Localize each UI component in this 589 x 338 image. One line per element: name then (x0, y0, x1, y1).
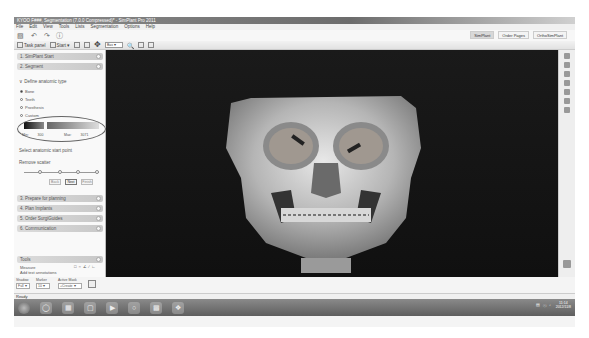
finish-button[interactable]: Finish (81, 179, 93, 185)
section-plan-implants[interactable]: 4. Plan Implants (17, 205, 103, 212)
button-label: Back (51, 180, 59, 184)
anatomic-type-heading: ∨ Define anatomic type (19, 79, 67, 84)
expand-icon[interactable] (96, 64, 101, 69)
help-icon[interactable]: ⓘ (543, 303, 546, 308)
app-icon[interactable]: ▢ (84, 302, 96, 314)
view-select[interactable]: Bas ▾ (105, 42, 123, 48)
max-label: Max: (64, 133, 72, 137)
expand-icon[interactable] (96, 216, 101, 221)
collapse-icon[interactable]: ∨ (19, 79, 23, 84)
ruler-tool-icon[interactable]: ∟ (92, 264, 96, 269)
section-label: Tools (20, 257, 31, 262)
slider-knob[interactable] (58, 170, 62, 174)
expand-icon[interactable] (96, 257, 101, 262)
step-text: Select anatomic start point (19, 148, 72, 153)
start-menu-icon[interactable] (18, 302, 30, 314)
rectangle-tool-icon[interactable]: □ (74, 264, 76, 269)
rotate-icon[interactable] (564, 62, 570, 68)
reset-icon[interactable] (564, 98, 570, 104)
start-button[interactable]: Start ▾ (50, 42, 71, 48)
scatter-slider[interactable] (24, 172, 99, 173)
section-order-surgiguides[interactable]: 5. Order SurgiGuides (17, 215, 103, 222)
clock[interactable]: 11:14 2012/11/8 (556, 301, 571, 309)
back-button[interactable]: Back (49, 179, 61, 185)
redo-icon[interactable]: ↷ (43, 32, 50, 39)
start-icon (50, 42, 56, 48)
max-value-field[interactable]: 3071 (81, 133, 89, 137)
help-icon[interactable]: ⓘ (56, 32, 63, 39)
browser-icon[interactable]: ◯ (40, 302, 52, 314)
min-threshold: Min: 300 (22, 133, 43, 137)
radio-label: Teeth (25, 97, 35, 102)
radio-bone[interactable]: Bone (20, 89, 34, 94)
start-label: Start (57, 43, 67, 48)
pan-icon[interactable]: ✥ (94, 42, 101, 48)
radio-teeth[interactable]: Teeth (20, 97, 35, 102)
fit-view-icon[interactable] (148, 42, 154, 48)
tab-label: SimPlant (474, 33, 490, 38)
save-icon[interactable]: ▧ (17, 32, 24, 39)
radio-label: Prosthesis (25, 105, 44, 110)
section-prepare-planning[interactable]: 3. Prepare for planning (17, 195, 103, 202)
section-simplant-start[interactable]: 1. SimPlant Start (17, 53, 103, 60)
slider-knob[interactable] (95, 170, 99, 174)
radio-dot (20, 114, 23, 117)
layers-icon[interactable] (564, 71, 570, 77)
min-label: Min: (22, 133, 29, 137)
view-icon[interactable] (564, 53, 570, 59)
expand-icon[interactable] (96, 54, 101, 59)
marker-select[interactable]: 10 ▾ (36, 283, 50, 289)
grid-icon[interactable] (564, 80, 570, 86)
mask-settings-bar: Shadow Full ▾ Marker 10 ▾ Active Mask +C… (14, 277, 106, 293)
annotations-row: Add text annotations (20, 270, 56, 275)
min-value-field[interactable]: 300 (38, 133, 44, 137)
section-tools[interactable]: Tools (17, 256, 103, 263)
media-player-icon[interactable]: ▶ (106, 302, 118, 314)
volume-icon[interactable]: ♩ (549, 303, 553, 307)
mask-manager-icon[interactable] (88, 280, 96, 288)
app-icon[interactable]: ○ (128, 302, 140, 314)
expand-icon[interactable] (96, 196, 101, 201)
radio-prosthesis[interactable]: Prosthesis (20, 105, 44, 110)
measure-tool-icon[interactable] (138, 42, 144, 48)
circle-tool-icon[interactable]: ○ (78, 264, 80, 269)
layout-icon[interactable] (84, 42, 90, 48)
slider-knob[interactable] (76, 170, 80, 174)
os-taskbar: ◯ ▦ ▢ ▶ ○ ▩ ❖ ▤ ⓘ ♩ 11:14 2012/11/8 (14, 299, 575, 316)
slider-knob[interactable] (38, 170, 42, 174)
expand-icon[interactable] (96, 206, 101, 211)
shadow-select[interactable]: Full ▾ (16, 283, 30, 289)
main-toolbar: Task panel Start ▾ ✥ Bas ▾ 🔍 (14, 41, 575, 50)
active-mask-label: Active Mask (58, 278, 77, 282)
file-explorer-icon[interactable]: ▦ (62, 302, 74, 314)
angle-tool-icon[interactable]: ∠ (83, 264, 87, 269)
wizard-buttons: Back Next Finish (49, 179, 93, 185)
task-panel: 1. SimPlant Start 2. Segment ∨ Define an… (14, 50, 106, 277)
undo-icon[interactable]: ↶ (30, 32, 37, 39)
expand-icon[interactable] (96, 226, 101, 231)
network-icon[interactable]: ▤ (536, 303, 540, 307)
light-icon[interactable] (564, 89, 570, 95)
settings-icon[interactable] (563, 260, 571, 268)
measure-tools: □ ○ ∠ ∕ ∟ (74, 264, 95, 269)
3d-viewport[interactable] (106, 50, 558, 277)
app-icon[interactable]: ▩ (150, 302, 162, 314)
radio-label: Bone (25, 89, 34, 94)
zoom-icon[interactable]: 🔍 (127, 42, 134, 49)
section-segment[interactable]: 2. Segment (17, 63, 103, 70)
task-panel-button[interactable]: Task panel (17, 42, 46, 48)
tab-order-pages[interactable]: Order Pages (498, 31, 529, 39)
max-threshold: Max: 3071 (64, 133, 88, 137)
section-communication[interactable]: 6. Communication (17, 225, 103, 232)
simplant-taskbar-icon[interactable]: ❖ (172, 302, 184, 314)
section-label: 2. Segment (20, 64, 43, 69)
export-icon[interactable] (564, 107, 570, 113)
next-button[interactable]: Next (65, 179, 77, 185)
tab-orthosimplant[interactable]: OrthoSimPlant (533, 31, 567, 39)
select-tool-icon[interactable] (74, 42, 80, 48)
line-tool-icon[interactable]: ∕ (89, 264, 90, 269)
annotations-label[interactable]: Add text annotations (20, 270, 56, 275)
select-start-point: Select anatomic start point (19, 148, 72, 153)
tab-simplant[interactable]: SimPlant (470, 31, 494, 39)
active-mask-select[interactable]: +Create ▾ (58, 283, 82, 289)
